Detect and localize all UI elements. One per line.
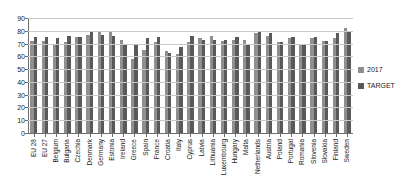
bar-target-spain bbox=[146, 38, 149, 133]
x-label-cell: Croatia bbox=[162, 134, 173, 192]
x-label-cell: Poland bbox=[274, 134, 285, 192]
bar-group bbox=[263, 18, 274, 133]
bar-group bbox=[140, 18, 151, 133]
y-tick-label-10: 10 bbox=[17, 117, 25, 124]
gridline-70 bbox=[28, 44, 353, 45]
bar-target-luxembourg bbox=[224, 40, 227, 133]
bar-group bbox=[73, 18, 84, 133]
x-label-cell: Czechia bbox=[73, 134, 84, 192]
bar-target-cyprus bbox=[190, 36, 193, 133]
bar-group bbox=[286, 18, 297, 133]
bar-target-portugal bbox=[291, 37, 294, 133]
x-label-cell: Slovenia bbox=[308, 134, 319, 192]
x-label-cell: Malta bbox=[241, 134, 252, 192]
bar-group bbox=[230, 18, 241, 133]
bar-chart: 9080706050403020100 EU 28EU 27BelgiumBul… bbox=[0, 0, 409, 195]
bar-target-austria bbox=[269, 33, 272, 133]
bar-target-eu-27 bbox=[45, 37, 48, 133]
bar-group bbox=[62, 18, 73, 133]
x-tick-mark bbox=[258, 134, 259, 137]
plot-area bbox=[28, 18, 353, 133]
bar-group bbox=[106, 18, 117, 133]
x-label-cell: Latvia bbox=[196, 134, 207, 192]
x-tick-label-portugal: Portugal bbox=[288, 139, 295, 163]
x-tick-label-eu-28: EU 28 bbox=[30, 139, 37, 157]
x-tick-label-germany: Germany bbox=[98, 139, 105, 166]
x-tick-label-france: France bbox=[154, 139, 161, 159]
x-tick-label-estonia: Estonia bbox=[109, 139, 116, 161]
bar-group bbox=[297, 18, 308, 133]
x-tick-label-bulgaria: Bulgaria bbox=[64, 139, 71, 163]
x-tick-label-czechia: Czechia bbox=[75, 139, 82, 162]
x-axis-labels: EU 28EU 27BelgiumBulgariaCzechiaDenmarkG… bbox=[28, 134, 353, 192]
x-tick-mark bbox=[190, 134, 191, 137]
x-tick-label-eu-27: EU 27 bbox=[42, 139, 49, 157]
x-tick-label-spain: Spain bbox=[142, 139, 149, 156]
x-tick-mark bbox=[347, 134, 348, 137]
bar-target-belgium bbox=[56, 38, 59, 133]
y-tick-label-90: 90 bbox=[17, 15, 25, 22]
y-axis: 9080706050403020100 bbox=[0, 18, 25, 133]
x-tick-mark bbox=[202, 134, 203, 137]
x-tick-label-italy: Italy bbox=[176, 139, 183, 151]
x-tick-mark bbox=[157, 134, 158, 137]
x-label-cell: Ireland bbox=[118, 134, 129, 192]
x-label-cell: Italy bbox=[174, 134, 185, 192]
x-label-cell: France bbox=[151, 134, 162, 192]
x-tick-label-slovakia: Slovakia bbox=[322, 139, 329, 164]
legend-item-2017[interactable]: 2017 bbox=[358, 66, 406, 73]
bar-group bbox=[118, 18, 129, 133]
x-tick-label-malta: Malta bbox=[243, 139, 250, 155]
bar-target-finland bbox=[336, 33, 339, 133]
bar-target-czechia bbox=[78, 37, 81, 133]
bar-group bbox=[308, 18, 319, 133]
x-tick-label-austria: Austria bbox=[266, 139, 273, 159]
x-tick-mark bbox=[112, 134, 113, 137]
x-tick-mark bbox=[291, 134, 292, 137]
x-tick-mark bbox=[325, 134, 326, 137]
gridline-60 bbox=[28, 56, 353, 57]
bar-target-germany bbox=[101, 35, 104, 133]
x-label-cell: Portugal bbox=[286, 134, 297, 192]
bar-target-bulgaria bbox=[67, 36, 70, 133]
x-tick-mark bbox=[179, 134, 180, 137]
gridline-30 bbox=[28, 95, 353, 96]
x-tick-label-denmark: Denmark bbox=[86, 139, 93, 165]
x-tick-mark bbox=[90, 134, 91, 137]
x-tick-mark bbox=[56, 134, 57, 137]
gridline-80 bbox=[28, 31, 353, 32]
legend-label-target: TARGET bbox=[367, 82, 395, 89]
gridline-40 bbox=[28, 82, 353, 83]
y-tick-label-80: 80 bbox=[17, 27, 25, 34]
bar-group bbox=[28, 18, 39, 133]
x-tick-label-romania: Romania bbox=[299, 139, 306, 165]
x-label-cell: Romania bbox=[297, 134, 308, 192]
bar-target-france bbox=[157, 37, 160, 133]
x-tick-mark bbox=[146, 134, 147, 137]
legend-label-2017: 2017 bbox=[367, 66, 383, 73]
bar-group bbox=[252, 18, 263, 133]
bar-group bbox=[174, 18, 185, 133]
bar-group bbox=[39, 18, 50, 133]
x-label-cell: Austria bbox=[263, 134, 274, 192]
legend-item-target[interactable]: TARGET bbox=[358, 82, 406, 89]
x-tick-label-slovenia: Slovenia bbox=[310, 139, 317, 164]
x-tick-mark bbox=[280, 134, 281, 137]
bar-group bbox=[274, 18, 285, 133]
x-tick-mark bbox=[67, 134, 68, 137]
x-tick-label-sweden: Sweden bbox=[344, 139, 351, 163]
bar-group bbox=[196, 18, 207, 133]
x-label-cell: EU 28 bbox=[28, 134, 39, 192]
y-tick-label-70: 70 bbox=[17, 40, 25, 47]
x-tick-mark bbox=[34, 134, 35, 137]
x-label-cell: Cyprus bbox=[185, 134, 196, 192]
x-tick-mark bbox=[78, 134, 79, 137]
y-tick-label-30: 30 bbox=[17, 91, 25, 98]
bar-target-slovakia bbox=[325, 41, 328, 133]
bar-target-latvia bbox=[202, 40, 205, 133]
bar-group bbox=[218, 18, 229, 133]
x-tick-mark bbox=[336, 134, 337, 137]
x-tick-mark bbox=[101, 134, 102, 137]
x-label-cell: Finland bbox=[330, 134, 341, 192]
x-tick-label-latvia: Latvia bbox=[198, 139, 205, 156]
